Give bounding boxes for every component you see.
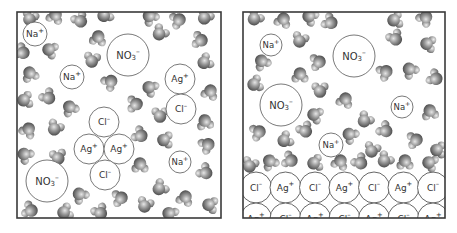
ion-ag: Ag+ — [388, 172, 419, 203]
ion-na: Na+ — [260, 34, 282, 56]
ion-cl: Cl– — [359, 172, 390, 203]
ion-cl: Cl– — [241, 172, 272, 203]
ion-cl: Cl– — [300, 172, 331, 203]
ion-no3: NO3– — [26, 160, 68, 202]
ion-na: Na+ — [319, 133, 343, 157]
ion-no3: NO3– — [333, 35, 375, 77]
ion-na: Na+ — [60, 65, 84, 89]
ion-cl: Cl– — [166, 94, 196, 124]
ion-na: Na+ — [169, 151, 191, 173]
precipitate-panel: Cl–Ag+Cl–Ag+Cl–Ag+Cl–Ag+Cl–Ag+Cl–Ag+Cl–A… — [239, 6, 448, 233]
ion-cl: Cl– — [418, 172, 449, 203]
solution-panel: Na+NO3–Na+Ag+Cl–Cl–Ag+Ag+Cl–Na+NO3– — [11, 4, 221, 225]
ion-ag: Ag+ — [74, 134, 104, 164]
ion-no3: NO3– — [107, 34, 149, 76]
ion-ag: Ag+ — [270, 172, 301, 203]
ion-ag: Ag+ — [165, 64, 195, 94]
ion-na: Na+ — [391, 96, 413, 118]
ion-na: Na+ — [23, 22, 47, 46]
ion-cl: Cl– — [89, 107, 119, 137]
ion-cl: Cl– — [90, 160, 120, 190]
agcl-precipitation-diagram: Na+NO3–Na+Ag+Cl–Cl–Ag+Ag+Cl–Na+NO3– Cl–A… — [0, 0, 457, 233]
ion-no3: NO3– — [260, 84, 302, 126]
ion-ag: Ag+ — [104, 134, 134, 164]
ion-ag: Ag+ — [329, 172, 360, 203]
